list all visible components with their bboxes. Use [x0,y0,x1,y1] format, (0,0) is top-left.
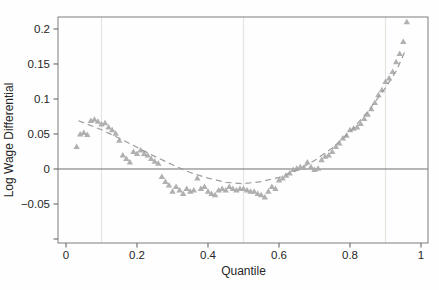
x-tick-label: 0.4 [200,249,217,261]
data-point-triangle [265,188,271,194]
y-axis-title: Log Wage Differential [2,83,16,198]
data-point-triangle [308,164,314,170]
data-point-triangle [191,187,197,193]
y-tick-label: 0.05 [28,128,50,140]
y-tick-label: 0 [44,163,50,175]
data-point-triangle [162,178,168,184]
data-point-triangle [397,50,403,56]
x-tick-label: 0 [63,249,69,261]
data-point-triangle [393,59,399,65]
y-tick-label: 0.1 [34,93,50,105]
x-axis-title: Quantile [221,264,266,278]
x-tick-label: 0.6 [271,249,287,261]
x-tick-label: 0.8 [342,249,358,261]
data-point-triangle [102,120,108,126]
data-point-triangle [201,183,207,189]
y-tick-label: 0.15 [28,58,50,70]
data-point-triangle [315,165,321,171]
data-point-triangle [400,38,406,44]
data-point-triangle [404,19,410,25]
y-tick-label: −0.05 [21,198,50,210]
data-point-triangle [159,174,165,180]
quantile-wage-chart-figure: 00.20.40.60.81−0.0500.050.10.150.2Quanti… [0,0,439,290]
x-tick-label: 1 [418,249,424,261]
data-point-triangle [169,188,175,194]
y-tick-label: 0.2 [34,23,50,35]
data-point-triangle [73,143,79,149]
data-point-triangle [304,159,310,165]
data-point-triangle [183,186,189,192]
data-point-triangle [120,152,126,158]
x-tick-label: 0.2 [129,249,145,261]
data-point-triangle [372,99,378,105]
scatter-chart: 00.20.40.60.81−0.0500.050.10.150.2Quanti… [0,0,439,290]
data-point-triangle [173,183,179,189]
